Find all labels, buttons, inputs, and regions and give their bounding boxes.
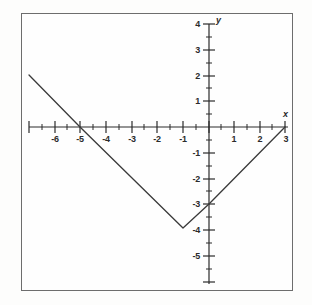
x-axis-label: x [283, 109, 288, 119]
y-tick-label--2: -2 [184, 174, 200, 184]
y-tick-label--3: -3 [184, 199, 200, 209]
y-tick-label-4: 4 [186, 19, 200, 29]
x-tick-label-3: 3 [284, 134, 289, 144]
y-tick-label--1: -1 [184, 148, 200, 158]
y-tick-label--5: -5 [184, 251, 200, 261]
x-tick-label--3: -3 [128, 134, 136, 144]
y-tick-label--4: -4 [184, 225, 200, 235]
y-tick-label-1: 1 [186, 96, 200, 106]
y-tick-label-3: 3 [186, 45, 200, 55]
x-tick-label--1: -1 [179, 134, 187, 144]
x-tick-label-2: 2 [258, 134, 263, 144]
x-tick-label--6: -6 [51, 134, 59, 144]
y-tick-label-2: 2 [186, 71, 200, 81]
y-axis-label: y [216, 15, 221, 25]
x-tick-label-1: 1 [232, 134, 237, 144]
graph-figure: -6 -5 -4 -3 -2 -1 1 2 3 4 3 2 1 -1 -2 -3… [0, 0, 312, 305]
graph-canvas [0, 0, 312, 305]
x-tick-label--4: -4 [102, 134, 110, 144]
data-series-line [29, 75, 285, 228]
x-tick-label--2: -2 [153, 134, 161, 144]
x-tick-label--5: -5 [76, 134, 84, 144]
